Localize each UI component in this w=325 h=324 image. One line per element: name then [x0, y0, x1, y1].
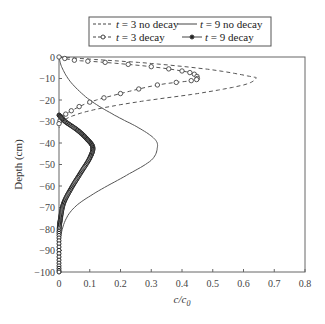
marker-open-circle	[118, 91, 122, 95]
marker-filled-circle	[57, 270, 61, 274]
y-tick-label: −100	[34, 267, 55, 278]
legend-label: t = 3 no decay	[116, 18, 179, 30]
legend-label: t = 9 no decay	[200, 18, 263, 30]
x-tick-label: 0	[57, 278, 62, 289]
legend-label: t = 3 decay	[116, 31, 165, 43]
x-tick-label: 0.4	[176, 278, 189, 289]
y-tick-label: −90	[39, 245, 55, 256]
x-tick-label: 0.8	[299, 278, 312, 289]
marker-open-circle	[189, 78, 193, 82]
marker-open-circle	[103, 60, 107, 64]
marker-open-circle	[188, 70, 192, 74]
x-tick-label: 0.6	[237, 278, 250, 289]
y-tick-label: −20	[39, 95, 55, 106]
marker-open-circle	[167, 67, 171, 71]
legend-label: t = 9 decay	[205, 31, 254, 43]
marker-open-circle	[126, 62, 130, 66]
y-tick-label: −70	[39, 202, 55, 213]
series-t9-no-decay	[59, 57, 158, 272]
marker-open-circle	[57, 55, 61, 59]
marker-open-circle	[88, 100, 92, 104]
marker-open-circle	[69, 109, 73, 113]
y-tick-label: 0	[50, 52, 55, 63]
y-tick-label: −80	[39, 224, 55, 235]
y-tick-label: −50	[39, 159, 55, 170]
x-tick-label: 0.3	[145, 278, 158, 289]
y-tick-label: −40	[39, 138, 55, 149]
marker-open-circle	[194, 77, 198, 81]
marker-open-circle	[137, 87, 141, 91]
y-tick-label: −60	[39, 181, 55, 192]
x-tick-label: 0.2	[114, 278, 127, 289]
marker-open-circle	[63, 56, 67, 60]
x-tick-label: 0.7	[268, 278, 281, 289]
x-tick-label: 0.1	[84, 278, 97, 289]
legend-marker	[101, 35, 105, 39]
marker-open-circle	[77, 104, 81, 108]
marker-open-circle	[174, 80, 178, 84]
legend-marker	[190, 35, 194, 39]
marker-open-circle	[180, 69, 184, 73]
depth-profile-chart: 00.10.20.30.40.50.60.70.80−10−20−30−40−5…	[0, 0, 325, 324]
y-tick-label: −10	[39, 73, 55, 84]
marker-open-circle	[149, 64, 153, 68]
plot-frame	[59, 57, 305, 272]
x-axis-label: c/c0	[174, 293, 191, 308]
marker-open-circle	[86, 59, 90, 63]
marker-open-circle	[57, 121, 61, 125]
y-axis-label: Depth (cm)	[12, 139, 25, 190]
marker-open-circle	[102, 96, 106, 100]
marker-open-circle	[155, 83, 159, 87]
y-tick-label: −30	[39, 116, 55, 127]
x-tick-label: 0.5	[207, 278, 220, 289]
marker-open-circle	[72, 58, 76, 62]
